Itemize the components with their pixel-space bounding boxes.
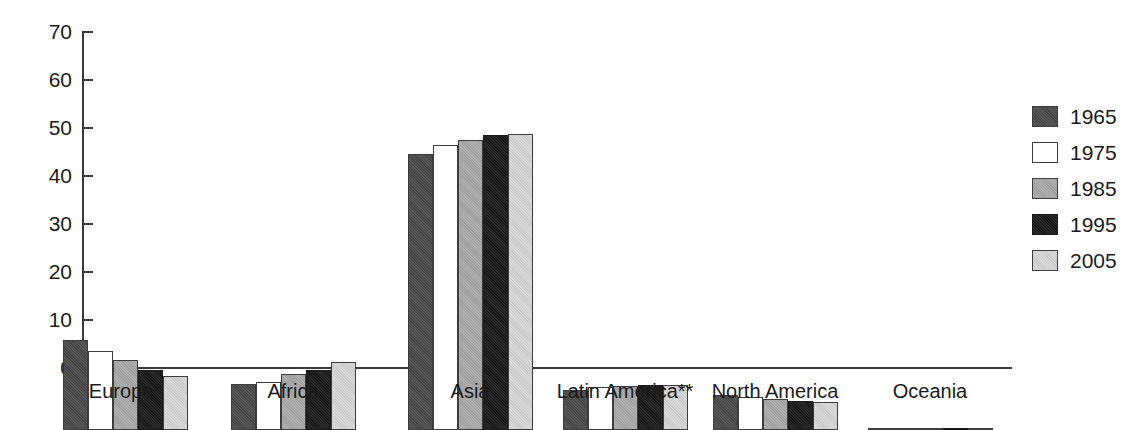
y-tick-label-70: 70: [26, 21, 72, 42]
legend-item-1975: 1975: [1032, 134, 1117, 170]
bar: [788, 401, 813, 430]
legend-swatch-icon: [1032, 106, 1058, 127]
legend-swatch-icon: [1032, 214, 1058, 235]
y-tick-60: [84, 79, 93, 81]
legend-item-1985: 1985: [1032, 170, 1117, 206]
bar: [813, 402, 838, 430]
bar: [763, 399, 788, 430]
legend-label: 1975: [1070, 142, 1117, 163]
x-axis-label: Oceania: [820, 380, 1040, 402]
legend-swatch-icon: [1032, 250, 1058, 271]
y-tick-label-60: 60: [26, 69, 72, 90]
legend: 19651975198519952005: [1032, 98, 1117, 278]
legend-label: 1965: [1070, 106, 1117, 127]
legend-item-2005: 2005: [1032, 242, 1117, 278]
legend-label: 1985: [1070, 178, 1117, 199]
bar: [738, 397, 763, 430]
legend-label: 2005: [1070, 250, 1117, 271]
legend-item-1995: 1995: [1032, 206, 1117, 242]
legend-swatch-icon: [1032, 142, 1058, 163]
bar-chart: 010203040506070 Europe*AfricaAsiaLatin A…: [0, 0, 1143, 430]
y-tick-70: [84, 31, 93, 33]
legend-label: 1995: [1070, 214, 1117, 235]
legend-swatch-icon: [1032, 178, 1058, 199]
legend-item-1965: 1965: [1032, 98, 1117, 134]
